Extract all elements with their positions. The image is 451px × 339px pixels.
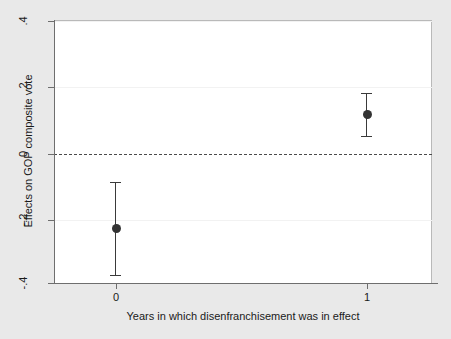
gridline-y-0.2 <box>55 87 432 88</box>
y-tick-mark-3 <box>48 220 54 221</box>
data-point-marker-1 <box>363 110 372 119</box>
y-tick-mark-4 <box>48 283 54 284</box>
errorbar-cap-lower-1 <box>361 136 372 137</box>
chart-figure: .4 .2 0 -.2 -.4 0 1 Years in which disen… <box>0 0 451 339</box>
x-axis-title: Years in which disenfranchisement was in… <box>54 310 432 322</box>
y-axis-line <box>54 20 55 284</box>
gridline-y-0.4 <box>55 21 432 22</box>
errorbar-cap-lower-0 <box>110 275 121 276</box>
zero-reference-line <box>54 154 432 155</box>
x-tick-mark-1 <box>367 283 368 289</box>
y-tick-mark-1 <box>48 87 54 88</box>
x-axis-line <box>48 283 438 284</box>
y-tick-mark-2 <box>48 154 54 155</box>
y-axis-title: Effects on GOP composite vote <box>22 26 34 276</box>
y-tick-mark-0 <box>48 21 54 22</box>
x-tick-mark-0 <box>116 283 117 289</box>
y-tick-label-4-wrap: -.4 <box>0 276 46 290</box>
plot-area <box>54 20 432 283</box>
gridline-y--0.2 <box>55 220 432 221</box>
x-tick-label-1: 1 <box>352 291 382 303</box>
data-point-marker-0 <box>112 224 121 233</box>
x-tick-label-0: 0 <box>101 291 131 303</box>
